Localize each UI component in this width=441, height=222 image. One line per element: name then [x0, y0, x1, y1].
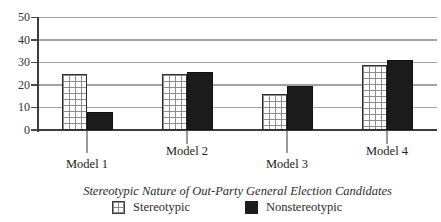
- category-label-4: Model 4: [352, 144, 422, 158]
- bar-nonstereotypic-model-2: [187, 72, 213, 131]
- bar-stereotypic-model-1: [62, 74, 88, 130]
- category-tick-2: [186, 131, 188, 144]
- category-tick-4: [386, 131, 388, 144]
- nonstereotypic-swatch-icon: [245, 201, 258, 214]
- gridline-40: [38, 39, 438, 41]
- legend-item-nonstereotypic: Nonstereotypic: [245, 200, 342, 215]
- bar-nonstereotypic-model-1: [87, 112, 113, 130]
- y-tick-label-50: 50: [0, 10, 30, 25]
- bar-nonstereotypic-model-4: [387, 60, 413, 130]
- y-tick-label-20: 20: [0, 78, 30, 93]
- y-axis-line: [37, 17, 39, 132]
- bar-nonstereotypic-model-3: [287, 86, 313, 130]
- bar-chart-figure: 01020304050Model 1Model 2Model 3Model 4 …: [0, 0, 441, 222]
- gridline-30: [38, 62, 438, 64]
- category-label-1: Model 1: [52, 157, 122, 171]
- y-tick-label-30: 30: [0, 55, 30, 70]
- legend-item-stereotypic: Stereotypic: [112, 200, 190, 215]
- legend-label-nonstereotypic: Nonstereotypic: [266, 200, 342, 215]
- y-tick-label-10: 10: [0, 100, 30, 115]
- y-tick-label-40: 40: [0, 33, 30, 48]
- category-tick-3: [286, 131, 288, 153]
- legend-label-stereotypic: Stereotypic: [133, 200, 190, 215]
- category-tick-1: [86, 131, 88, 153]
- category-label-2: Model 2: [152, 144, 222, 158]
- bar-stereotypic-model-4: [362, 65, 388, 130]
- x-axis-title: Stereotypic Nature of Out-Party General …: [38, 184, 437, 199]
- category-label-3: Model 3: [252, 157, 322, 171]
- y-tick-label-0: 0: [0, 123, 30, 138]
- bar-stereotypic-model-3: [262, 94, 288, 130]
- gridline-50: [38, 17, 438, 19]
- bar-stereotypic-model-2: [162, 74, 188, 130]
- stereotypic-swatch-icon: [112, 201, 125, 214]
